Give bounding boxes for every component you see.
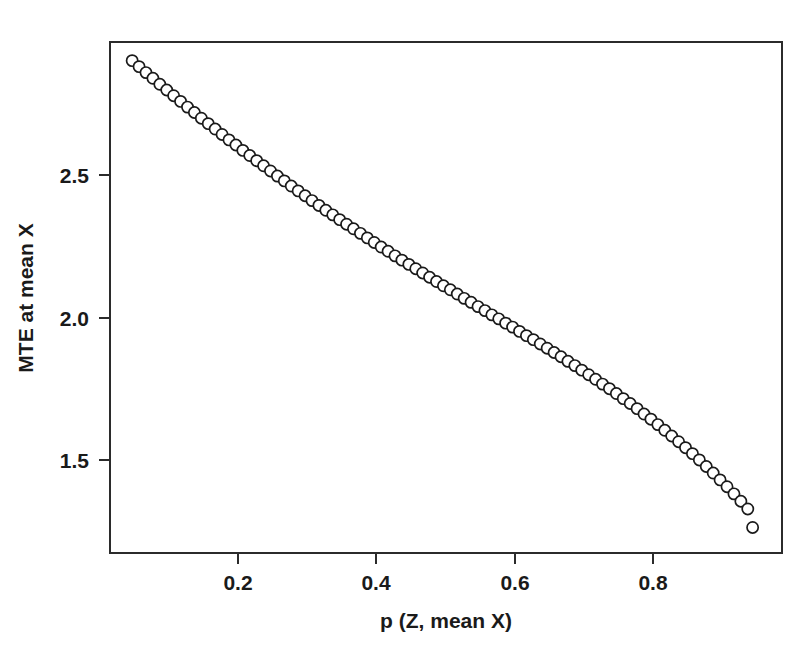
x-tick-label-1: 0.4 <box>361 571 391 594</box>
data-point <box>742 503 753 514</box>
x-tick-label-2: 0.6 <box>500 571 529 594</box>
x-tick-label-0: 0.2 <box>223 571 252 594</box>
y-tick-label-0: 2.5 <box>60 164 90 187</box>
x-tick-label-3: 0.8 <box>638 571 668 594</box>
y-tick-label-1: 2.0 <box>60 307 89 330</box>
y-axis-title: MTE at mean X <box>14 223 37 372</box>
chart-figure: 0.2 0.4 0.6 0.8 2.5 2.0 1.5 p (Z, mean X… <box>0 0 805 650</box>
y-tick-label-2: 1.5 <box>60 449 90 472</box>
data-point <box>747 522 758 533</box>
x-axis-title: p (Z, mean X) <box>380 609 512 632</box>
mte-scatter-chart: 0.2 0.4 0.6 0.8 2.5 2.0 1.5 p (Z, mean X… <box>0 0 805 650</box>
